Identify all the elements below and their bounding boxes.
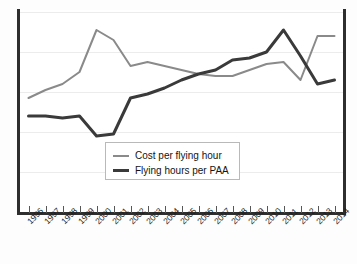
x-tick-2007	[216, 206, 217, 213]
axis-frame-right	[343, 9, 346, 215]
legend-label-cost-per-flying-hour: Cost per flying hour	[135, 151, 222, 161]
chart-legend: Cost per flying hour Flying hours per PA…	[105, 142, 240, 180]
x-tick-1996	[29, 206, 30, 213]
x-tick-2013	[318, 206, 319, 213]
gridline-0	[20, 12, 343, 13]
x-tick-2002	[131, 206, 132, 213]
x-tick-2008	[233, 206, 234, 213]
x-tick-2005	[182, 206, 183, 213]
gridline-3	[20, 132, 343, 133]
x-tick-2010	[267, 206, 268, 213]
legend-label-flying-hours-per-paa: Flying hours per PAA	[135, 166, 229, 176]
x-tick-2004	[165, 206, 166, 213]
line-chart-figure: 1996199719981999200020012002200320042005…	[0, 0, 357, 264]
x-tick-2001	[114, 206, 115, 213]
x-tick-2014	[335, 206, 336, 213]
axis-frame-left	[17, 9, 20, 215]
gridline-1	[20, 52, 343, 53]
x-tick-2006	[199, 206, 200, 213]
gridline-2	[20, 92, 343, 93]
line-swatch-dark-icon	[113, 169, 129, 172]
x-tick-2000	[97, 206, 98, 213]
x-tick-2011	[284, 206, 285, 213]
line-swatch-gray-icon	[113, 155, 129, 157]
x-tick-1998	[63, 206, 64, 213]
legend-item-cost-per-flying-hour: Cost per flying hour	[113, 148, 232, 163]
plot-area	[17, 10, 345, 213]
legend-item-flying-hours-per-paa: Flying hours per PAA	[113, 163, 232, 178]
x-tick-1997	[46, 206, 47, 213]
x-tick-2012	[301, 206, 302, 213]
x-tick-1999	[80, 206, 81, 213]
x-tick-2009	[250, 206, 251, 213]
x-tick-2003	[148, 206, 149, 213]
